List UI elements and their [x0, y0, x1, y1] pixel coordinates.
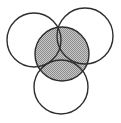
center-shaded-circle [35, 27, 89, 81]
venn-diagram [0, 0, 121, 123]
